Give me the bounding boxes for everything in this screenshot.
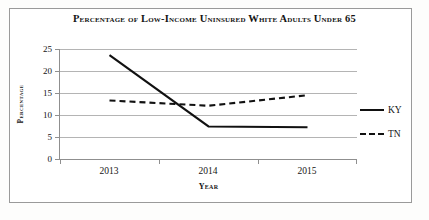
gridline-20	[60, 71, 357, 72]
legend-label-tn: TN	[384, 129, 401, 139]
legend-line-dashed-icon	[360, 129, 384, 139]
gridline-10	[60, 115, 357, 116]
chart-title: Percentage of Low-Income Uninsured White…	[0, 13, 429, 24]
y-tick-label: 25	[26, 44, 52, 54]
x-tick-mark	[60, 160, 61, 164]
gridline-5	[60, 137, 357, 138]
legend-item-ky: KY	[360, 98, 420, 122]
chart-legend: KY TN	[360, 98, 420, 146]
x-tick-mark	[159, 160, 160, 164]
gridline-0	[60, 159, 357, 160]
x-tick-mark	[258, 160, 259, 164]
y-tick-label: 0	[26, 154, 52, 164]
y-axis-title: Percentage	[16, 85, 25, 124]
y-tick-label: 10	[26, 110, 52, 120]
legend-label-ky: KY	[384, 105, 402, 115]
x-tick-mark	[356, 160, 357, 164]
gridline-25	[60, 49, 357, 50]
y-tick-label: 20	[26, 66, 52, 76]
legend-line-solid-icon	[360, 105, 384, 115]
y-tick-label: 15	[26, 88, 52, 98]
x-axis-title: Year	[0, 182, 417, 191]
chart-figure: Percentage of Low-Income Uninsured White…	[0, 0, 429, 220]
plot-area	[60, 49, 357, 159]
legend-item-tn: TN	[360, 122, 420, 146]
gridline-15	[60, 93, 357, 94]
x-tick-label-2014: 2014	[178, 166, 238, 176]
x-tick-label-2013: 2013	[79, 166, 139, 176]
y-tick-label: 5	[26, 132, 52, 142]
x-tick-label-2015: 2015	[277, 166, 337, 176]
